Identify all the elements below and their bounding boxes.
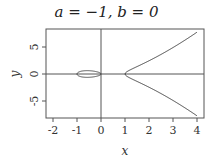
y-axis: 50-5 <box>28 44 46 107</box>
x-tick-label: -2 <box>48 124 59 137</box>
y-tick-label: 0 <box>28 71 41 78</box>
x-tick-label: 1 <box>122 124 129 137</box>
x-axis: -2-101234 <box>48 118 201 137</box>
y-axis-title: y <box>8 70 22 78</box>
x-tick-label: -1 <box>72 124 83 137</box>
x-axis-title: x <box>122 144 129 158</box>
x-tick-label: 4 <box>194 124 201 137</box>
y-tick-label: 5 <box>28 44 41 51</box>
x-tick-label: 2 <box>146 124 153 137</box>
x-tick-label: 0 <box>98 124 105 137</box>
x-tick-label: 3 <box>170 124 177 137</box>
y-tick-label: -5 <box>28 96 41 107</box>
plot-area: -2-101234 50-5 x y <box>0 0 213 164</box>
